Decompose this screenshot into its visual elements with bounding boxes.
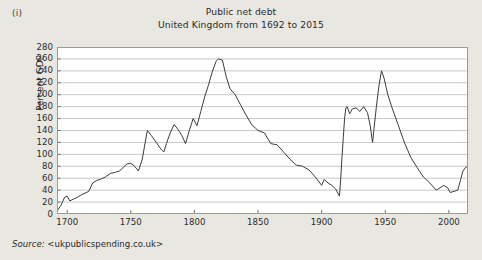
y-axis-label: Percent GDP [35,23,45,143]
chart-title: Public net debt [0,6,482,19]
y-tick-label: 160 [11,114,53,123]
x-tick-label: 1950 [365,218,405,227]
x-tick-label: 1800 [174,218,214,227]
chart-subtitle: United Kingdom from 1692 to 2015 [0,19,482,32]
x-tick-label: 1700 [47,218,87,227]
plot-area [57,47,468,214]
y-tick-label: 180 [11,102,53,111]
y-tick-label: 100 [11,150,53,159]
x-tick-label: 1900 [302,218,342,227]
y-tick-label: 140 [11,126,53,135]
y-tick-label: 0 [11,210,53,219]
y-tick-label: 240 [11,66,53,75]
y-tick-label: 280 [11,43,53,52]
y-tick-label: 40 [11,186,53,195]
x-tick-label: 1850 [238,218,278,227]
chart-figure: (i) Public net debt United Kingdom from … [0,0,482,260]
source-prefix: Source: [12,239,45,249]
source-note: Source: <ukpublicspending.co.uk> [12,239,163,249]
y-tick-label: 60 [11,174,53,183]
source-value: <ukpublicspending.co.uk> [47,239,163,249]
y-tick-label: 120 [11,138,53,147]
y-tick-label: 200 [11,90,53,99]
y-tick-label: 260 [11,54,53,63]
y-tick-label: 80 [11,162,53,171]
x-tick-label: 2000 [429,218,469,227]
y-tick-label: 20 [11,198,53,207]
chart-title-block: Public net debt United Kingdom from 1692… [0,6,482,31]
x-tick-label: 1750 [111,218,151,227]
y-tick-label: 220 [11,78,53,87]
chart-canvas [57,47,468,214]
